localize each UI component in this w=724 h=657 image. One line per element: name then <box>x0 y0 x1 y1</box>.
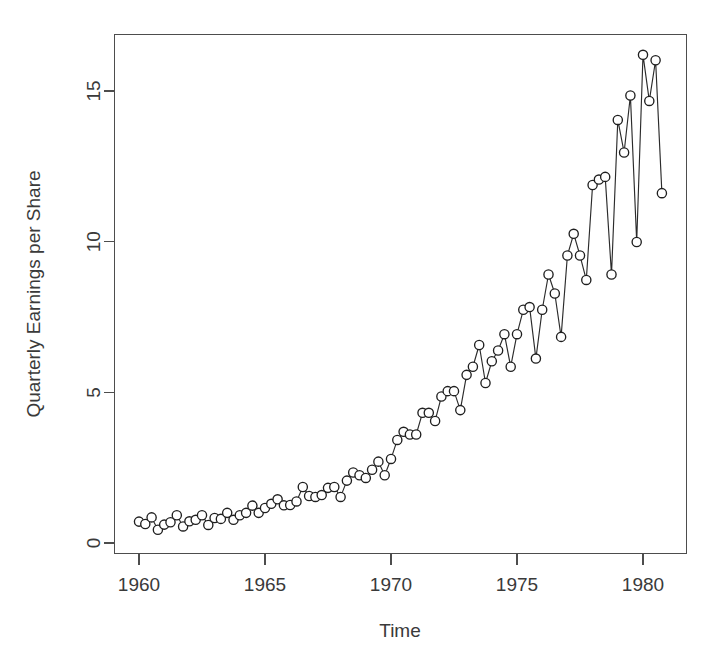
data-point <box>147 513 156 522</box>
data-point <box>462 370 471 379</box>
data-point <box>613 115 622 124</box>
data-point <box>424 408 433 417</box>
x-axis-ticks <box>139 554 643 565</box>
data-point <box>361 473 370 482</box>
data-point <box>487 357 496 366</box>
data-point <box>544 270 553 279</box>
data-point <box>563 251 572 260</box>
x-axis-tick-labels: 19601965197019751980 <box>118 574 664 595</box>
y-tick-label: 0 <box>83 538 104 549</box>
data-point <box>374 457 383 466</box>
data-point <box>292 497 301 506</box>
data-point <box>197 511 206 520</box>
data-point <box>172 511 181 520</box>
x-axis-title: Time <box>379 620 421 641</box>
data-point <box>550 289 559 298</box>
data-point <box>481 378 490 387</box>
plot-frame <box>115 35 687 554</box>
data-point <box>393 435 402 444</box>
x-tick-label: 1980 <box>622 574 664 595</box>
y-tick-label: 5 <box>83 387 104 398</box>
x-tick-label: 1965 <box>244 574 286 595</box>
data-point <box>468 362 477 371</box>
data-point <box>626 91 635 100</box>
data-point <box>525 302 534 311</box>
chart-figure: 19601965197019751980 051015 Time Quarter… <box>0 0 724 657</box>
data-point <box>607 270 616 279</box>
data-series-layer <box>134 50 666 534</box>
y-tick-label: 15 <box>83 80 104 101</box>
y-axis-tick-labels: 051015 <box>83 80 104 548</box>
data-point <box>620 148 629 157</box>
data-point <box>431 416 440 425</box>
line-chart-plot: 19601965197019751980 051015 Time Quarter… <box>0 0 724 657</box>
data-point <box>569 229 578 238</box>
data-point <box>601 172 610 181</box>
data-point <box>456 406 465 415</box>
data-point <box>506 362 515 371</box>
y-axis-ticks <box>104 91 115 543</box>
data-point <box>298 482 307 491</box>
data-point <box>512 330 521 339</box>
x-tick-label: 1975 <box>496 574 538 595</box>
data-point <box>651 56 660 65</box>
data-point <box>449 387 458 396</box>
data-point <box>412 430 421 439</box>
series-line <box>139 55 662 530</box>
data-point <box>638 50 647 59</box>
data-point <box>380 471 389 480</box>
data-point <box>475 340 484 349</box>
data-point <box>494 346 503 355</box>
data-point <box>330 482 339 491</box>
data-point <box>582 275 591 284</box>
x-tick-label: 1960 <box>118 574 160 595</box>
data-point <box>557 332 566 341</box>
data-point <box>632 237 641 246</box>
data-point <box>575 251 584 260</box>
data-point <box>538 305 547 314</box>
data-point <box>368 465 377 474</box>
data-point <box>531 354 540 363</box>
data-point <box>386 454 395 463</box>
data-point <box>500 330 509 339</box>
data-point <box>645 96 654 105</box>
y-axis-title: Quarterly Earnings per Share <box>23 170 44 417</box>
data-point <box>657 189 666 198</box>
y-tick-label: 10 <box>83 231 104 252</box>
x-tick-label: 1970 <box>370 574 412 595</box>
data-point <box>342 476 351 485</box>
data-point <box>336 492 345 501</box>
